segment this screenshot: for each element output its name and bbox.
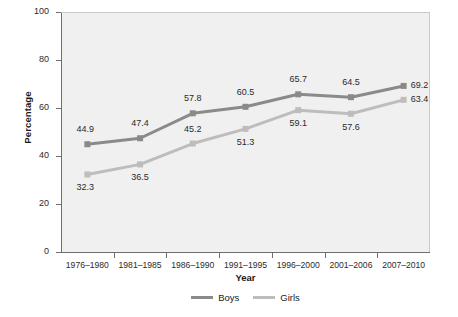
- x-tick-mark: [325, 253, 326, 258]
- point-value-label: 44.9: [72, 124, 98, 134]
- y-tick-mark: [56, 156, 61, 157]
- data-point-marker: [295, 107, 301, 113]
- x-tick-label: 1981–1985: [114, 260, 167, 270]
- x-tick-label: 2001–2006: [325, 260, 378, 270]
- data-point-marker: [348, 111, 354, 117]
- x-tick-label: 1986–1990: [166, 260, 219, 270]
- legend-swatch-girls: [253, 296, 275, 300]
- y-tick-label: 60: [19, 102, 49, 112]
- point-value-label: 32.3: [72, 182, 98, 192]
- point-value-label: 59.1: [285, 118, 311, 128]
- y-axis-title: Percentage: [22, 73, 33, 163]
- legend-label-boys: Boys: [218, 292, 239, 303]
- y-tick-mark: [56, 252, 61, 253]
- data-point-marker: [243, 126, 249, 132]
- data-point-marker: [295, 91, 301, 97]
- point-value-label: 69.2: [411, 80, 437, 90]
- y-tick-mark: [56, 12, 61, 13]
- point-value-label: 57.6: [338, 122, 364, 132]
- legend-label-girls: Girls: [280, 292, 300, 303]
- data-point-marker: [84, 171, 90, 177]
- point-value-label: 47.4: [127, 118, 153, 128]
- legend-item-boys[interactable]: Boys: [191, 292, 239, 303]
- y-tick-mark: [56, 108, 61, 109]
- point-value-label: 51.3: [233, 137, 259, 147]
- y-tick-label: 40: [19, 150, 49, 160]
- y-tick-label: 80: [19, 54, 49, 64]
- x-tick-mark: [166, 253, 167, 258]
- data-point-marker: [190, 110, 196, 116]
- point-value-label: 45.2: [180, 124, 206, 134]
- data-point-marker: [137, 135, 143, 141]
- y-tick-mark: [56, 60, 61, 61]
- y-tick-label: 0: [19, 246, 49, 256]
- chart-legend: Boys Girls: [61, 292, 430, 303]
- x-tick-label: 1991–1995: [219, 260, 272, 270]
- data-point-marker: [137, 161, 143, 167]
- line-chart: Percentage Year 020406080100 1976–198019…: [0, 0, 458, 317]
- data-point-marker: [401, 97, 407, 103]
- data-point-marker: [84, 141, 90, 147]
- data-point-marker: [348, 94, 354, 100]
- data-point-marker: [190, 141, 196, 147]
- point-value-label: 60.5: [233, 87, 259, 97]
- y-tick-mark: [56, 204, 61, 205]
- x-tick-mark: [114, 253, 115, 258]
- legend-item-girls[interactable]: Girls: [253, 292, 300, 303]
- x-tick-mark: [272, 253, 273, 258]
- y-tick-label: 20: [19, 198, 49, 208]
- point-value-label: 64.5: [338, 77, 364, 87]
- point-value-label: 65.7: [285, 74, 311, 84]
- point-value-label: 36.5: [127, 172, 153, 182]
- x-tick-mark: [377, 253, 378, 258]
- x-axis-title: Year: [61, 272, 430, 283]
- y-tick-label: 100: [19, 6, 49, 16]
- data-point-marker: [243, 104, 249, 110]
- x-tick-label: 1976–1980: [61, 260, 114, 270]
- point-value-label: 63.4: [411, 94, 437, 104]
- data-point-marker: [401, 83, 407, 89]
- x-tick-mark: [219, 253, 220, 258]
- x-tick-label: 2007–2010: [377, 260, 430, 270]
- x-tick-label: 1996–2000: [272, 260, 325, 270]
- legend-swatch-boys: [191, 296, 213, 300]
- point-value-label: 57.8: [180, 93, 206, 103]
